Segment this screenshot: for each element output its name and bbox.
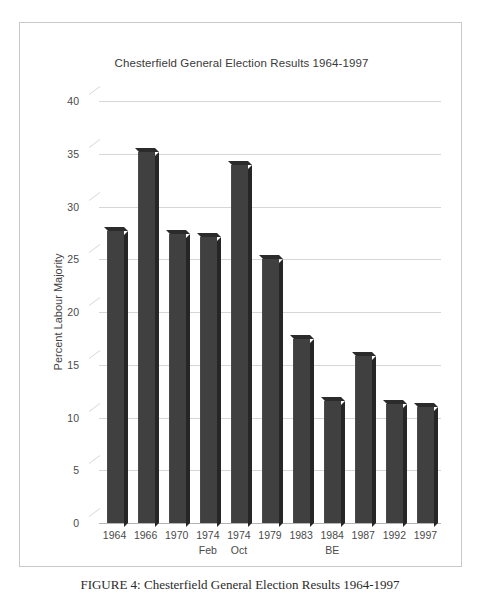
bar-side-face [124,231,128,527]
figure-page: Chesterfield General Election Results 19… [0,0,480,608]
bar [231,165,248,523]
bar-top-face [414,403,438,407]
figure-caption: FIGURE 4: Chesterfield General Election … [0,577,480,593]
bar-side-face [310,339,314,527]
x-axis-tick-label: 1974Oct [223,528,254,558]
x-axis-ticks: 1964196619701974Feb1974Oct197919831984BE… [99,528,441,584]
bar-series [99,101,441,523]
bar-side-face [217,237,221,527]
x-axis-tick-label: 1970 [161,528,192,543]
bar-side-face [248,165,252,527]
bar-slot [254,101,285,523]
plot-area: 0510152025303540 [89,101,441,523]
bar-top-face [290,335,314,339]
y-axis-tick-label: 25 [67,253,79,265]
bar [417,407,434,523]
bar-side-face [341,401,345,527]
bar-side-face [372,356,376,527]
y-axis-tick-label: 30 [67,201,79,213]
bar-top-face [383,400,407,404]
chart-frame: Chesterfield General Election Results 19… [19,22,462,567]
bar-slot [130,101,161,523]
bar-side-face [155,152,159,527]
x-axis-tick-label: 1966 [130,528,161,543]
bar-top-face [166,230,190,234]
x-axis-tick-label: 1997 [410,528,441,543]
x-axis-tick-label: 1974Feb [192,528,223,558]
bar-top-face [259,255,283,259]
x-axis-tick-label: 1979 [254,528,285,543]
y-axis-tick-label: 40 [67,95,79,107]
x-axis-tick-label: 1983 [286,528,317,543]
bar-slot [348,101,379,523]
y-axis-tick-label: 15 [67,359,79,371]
bar-slot [161,101,192,523]
bar [200,237,217,523]
bar-side-face [186,234,190,527]
bar-slot [317,101,348,523]
x-axis-tick-label: 1964 [99,528,130,543]
x-axis-tick-label: 1987 [348,528,379,543]
bar [324,401,341,523]
bar [293,339,310,523]
bar [386,404,403,523]
y-axis-title-label: Percent Labour Majority [52,254,64,371]
chart-title: Chesterfield General Election Results 19… [20,57,463,69]
axis-baseline [99,523,441,524]
y-axis-title: Percent Labour Majority [50,101,66,523]
y-axis-tick-label: 35 [67,148,79,160]
x-axis-tick-label: 1984BE [317,528,348,558]
bar-top-face [321,397,345,401]
y-axis-tick-label: 5 [73,464,79,476]
bar-slot [223,101,254,523]
bar-slot [379,101,410,523]
x-axis-tick-label: 1992 [379,528,410,543]
bar-top-face [135,148,159,152]
bar-slot [410,101,441,523]
bar-top-face [104,227,128,231]
bar-top-face [228,161,252,165]
bar-slot [99,101,130,523]
bar [169,234,186,523]
bar-top-face [352,352,376,356]
bar [355,356,372,523]
bar-side-face [279,259,283,527]
bar-slot [286,101,317,523]
bar-slot [192,101,223,523]
y-axis-tick-label: 20 [67,306,79,318]
bar-side-face [434,407,438,527]
bar-side-face [403,404,407,527]
bar [107,231,124,523]
y-axis-tick-label: 0 [73,517,79,529]
bar [262,259,279,523]
bar [138,152,155,523]
bar-top-face [197,233,221,237]
y-axis-tick-label: 10 [67,412,79,424]
